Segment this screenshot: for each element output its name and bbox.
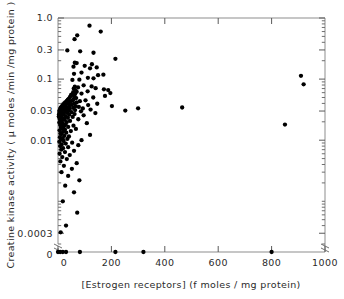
y-tick-label-5: 0.0003: [17, 228, 53, 239]
data-point: [79, 109, 83, 113]
data-point: [58, 159, 62, 163]
data-point: [64, 223, 68, 227]
data-point: [89, 84, 93, 88]
data-point: [95, 102, 99, 106]
data-point: [68, 153, 72, 157]
data-point: [93, 111, 97, 115]
data-point: [79, 91, 83, 95]
data-point: [59, 170, 63, 174]
data-point: [123, 108, 127, 112]
data-point: [72, 149, 76, 153]
data-point: [91, 51, 95, 55]
data-points-layer: [57, 23, 306, 234]
data-point: [301, 82, 305, 86]
plot-canvas: 1.00.30.10.030.010.000300 20040060080010…: [0, 0, 344, 299]
y-tick-label-zero: 0: [47, 249, 53, 260]
data-point: [71, 64, 75, 68]
data-point: [91, 95, 95, 99]
data-point: [75, 33, 79, 37]
y-tick-label-3: 0.03: [30, 105, 53, 116]
y-tick-label-4: 0.01: [30, 135, 53, 146]
zero-activity-point: [269, 250, 273, 254]
data-point: [65, 137, 69, 141]
y-tick-label-2: 0.1: [37, 73, 53, 84]
data-point: [76, 117, 80, 121]
data-point: [79, 138, 83, 142]
x-tick-label-3: 600: [209, 257, 228, 268]
x-tick-labels: 2004006008001000: [102, 257, 338, 268]
data-point: [81, 83, 85, 87]
data-point: [70, 78, 74, 82]
y-tick-label-0: 1.0: [37, 12, 53, 23]
data-point: [69, 129, 73, 133]
origin-zero-label: 0: [61, 257, 67, 268]
data-point: [75, 211, 79, 215]
data-point: [85, 121, 89, 125]
data-point: [75, 161, 79, 165]
data-point: [86, 103, 90, 107]
x-axis-ticks: [58, 246, 325, 252]
data-point: [99, 29, 103, 33]
data-point: [65, 48, 69, 52]
mirror-ticks: [111, 18, 329, 252]
data-point: [85, 89, 89, 93]
data-point: [71, 115, 75, 119]
data-point: [108, 91, 112, 95]
data-point: [95, 65, 99, 69]
data-point: [62, 164, 66, 168]
data-point: [101, 73, 105, 77]
data-point: [74, 127, 78, 131]
data-point: [72, 72, 76, 76]
data-point: [83, 64, 87, 68]
data-point: [59, 230, 63, 234]
data-point: [90, 62, 94, 66]
data-point: [79, 70, 83, 74]
data-point: [83, 98, 87, 102]
data-point: [110, 104, 114, 108]
plot-frame: [58, 18, 325, 252]
x-tick-label-4: 800: [262, 257, 281, 268]
data-point: [66, 174, 70, 178]
data-point: [77, 105, 81, 109]
data-point: [86, 76, 90, 80]
data-point: [76, 143, 80, 147]
zero-activity-point: [64, 250, 68, 254]
data-point: [63, 150, 67, 154]
data-point: [72, 37, 76, 41]
data-point: [60, 155, 64, 159]
x-axis-title: [Estrogen receptors] (f moles / mg prote…: [81, 279, 300, 290]
data-point: [66, 145, 70, 149]
data-point: [81, 113, 85, 117]
data-point: [64, 141, 68, 145]
data-point: [102, 87, 106, 91]
y-tick-label-1: 0.3: [37, 44, 53, 55]
data-point: [63, 184, 67, 188]
data-point: [65, 157, 69, 161]
data-point: [113, 57, 117, 61]
data-point: [94, 86, 98, 90]
x-tick-label-2: 400: [155, 257, 174, 268]
zero-activity-point: [113, 250, 117, 254]
zero-activity-point: [78, 250, 82, 254]
data-point: [88, 66, 92, 70]
data-point: [283, 122, 287, 126]
data-point: [87, 23, 91, 27]
zero-activity-point: [141, 250, 145, 254]
data-point: [77, 77, 81, 81]
data-point: [70, 167, 74, 171]
data-point: [61, 199, 65, 203]
data-point: [59, 148, 63, 152]
data-point: [78, 49, 82, 53]
x-tick-label-1: 200: [102, 257, 121, 268]
data-point: [103, 94, 107, 98]
data-point: [91, 76, 95, 80]
data-point: [136, 106, 140, 110]
data-point: [96, 73, 100, 77]
data-point: [75, 61, 79, 65]
x-tick-label-5: 1000: [312, 257, 338, 268]
data-point: [70, 141, 74, 145]
scatter-plot-figure: 1.00.30.10.030.010.000300 20040060080010…: [0, 0, 344, 299]
data-point: [72, 190, 76, 194]
data-point: [77, 178, 81, 182]
data-point: [88, 107, 92, 111]
